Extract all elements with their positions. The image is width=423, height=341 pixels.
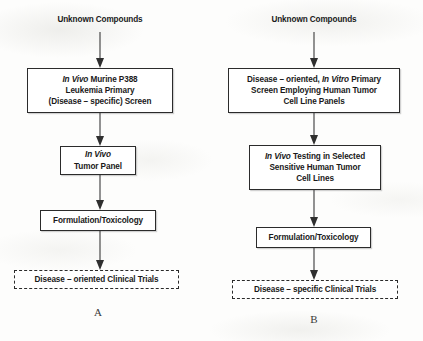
connector-layer [0,0,423,341]
arrow-b-screen-to-in-vivo-testing [310,113,318,145]
arrow-b-entry-to-screen [310,32,318,68]
arrow-b-formulation-to-trials [310,248,318,280]
arrow-a-screen-to-tumor-panel [96,113,104,146]
arrow-a-tumor-panel-to-formulation [96,175,104,210]
arrow-a-formulation-to-trials [96,231,104,270]
arrow-b-in-vivo-testing-to-formulation [310,190,318,227]
figure-canvas: Unknown Compounds In Vivo Murine P388Leu… [0,0,423,341]
arrow-a-entry-to-screen [96,32,104,68]
